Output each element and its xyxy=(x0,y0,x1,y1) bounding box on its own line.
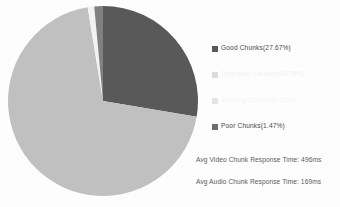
legend: Good Chunks(27.67%) Degraded Chunks(69.7… xyxy=(212,43,338,147)
avg-audio-chunk-response-time: Avg Audio Chunk Response Time: 169ms xyxy=(196,177,340,199)
legend-swatch-icon xyxy=(212,72,218,78)
pie-chart-svg xyxy=(8,6,198,196)
legend-item-good-chunks[interactable]: Good Chunks(27.67%) xyxy=(212,43,338,69)
avg-video-chunk-response-time: Avg Video Chunk Response Time: 496ms xyxy=(196,155,340,177)
pie-chart xyxy=(8,6,198,196)
response-time-annotations: Avg Video Chunk Response Time: 496ms Avg… xyxy=(196,155,340,199)
legend-item-warning-chunks[interactable]: Warning Chunks(1.11%) xyxy=(212,95,338,121)
legend-item-poor-chunks[interactable]: Poor Chunks(1.47%) xyxy=(212,121,338,147)
legend-item-label: Warning Chunks(1.11%) xyxy=(221,95,295,104)
legend-swatch-icon xyxy=(212,124,218,130)
legend-item-label: Degraded Chunks(69.75%) xyxy=(221,69,304,78)
legend-swatch-icon xyxy=(212,98,218,104)
legend-item-label: Good Chunks(27.67%) xyxy=(221,43,291,52)
pie-slice-good-chunks[interactable] xyxy=(103,6,198,117)
legend-item-label: Poor Chunks(1.47%) xyxy=(221,121,285,130)
legend-item-degraded-chunks[interactable]: Degraded Chunks(69.75%) xyxy=(212,69,338,95)
legend-swatch-icon xyxy=(212,46,218,52)
pie-chart-screenshot: CHUNK QUALITY Good Chunks(27.67%) Degrad… xyxy=(0,0,340,207)
